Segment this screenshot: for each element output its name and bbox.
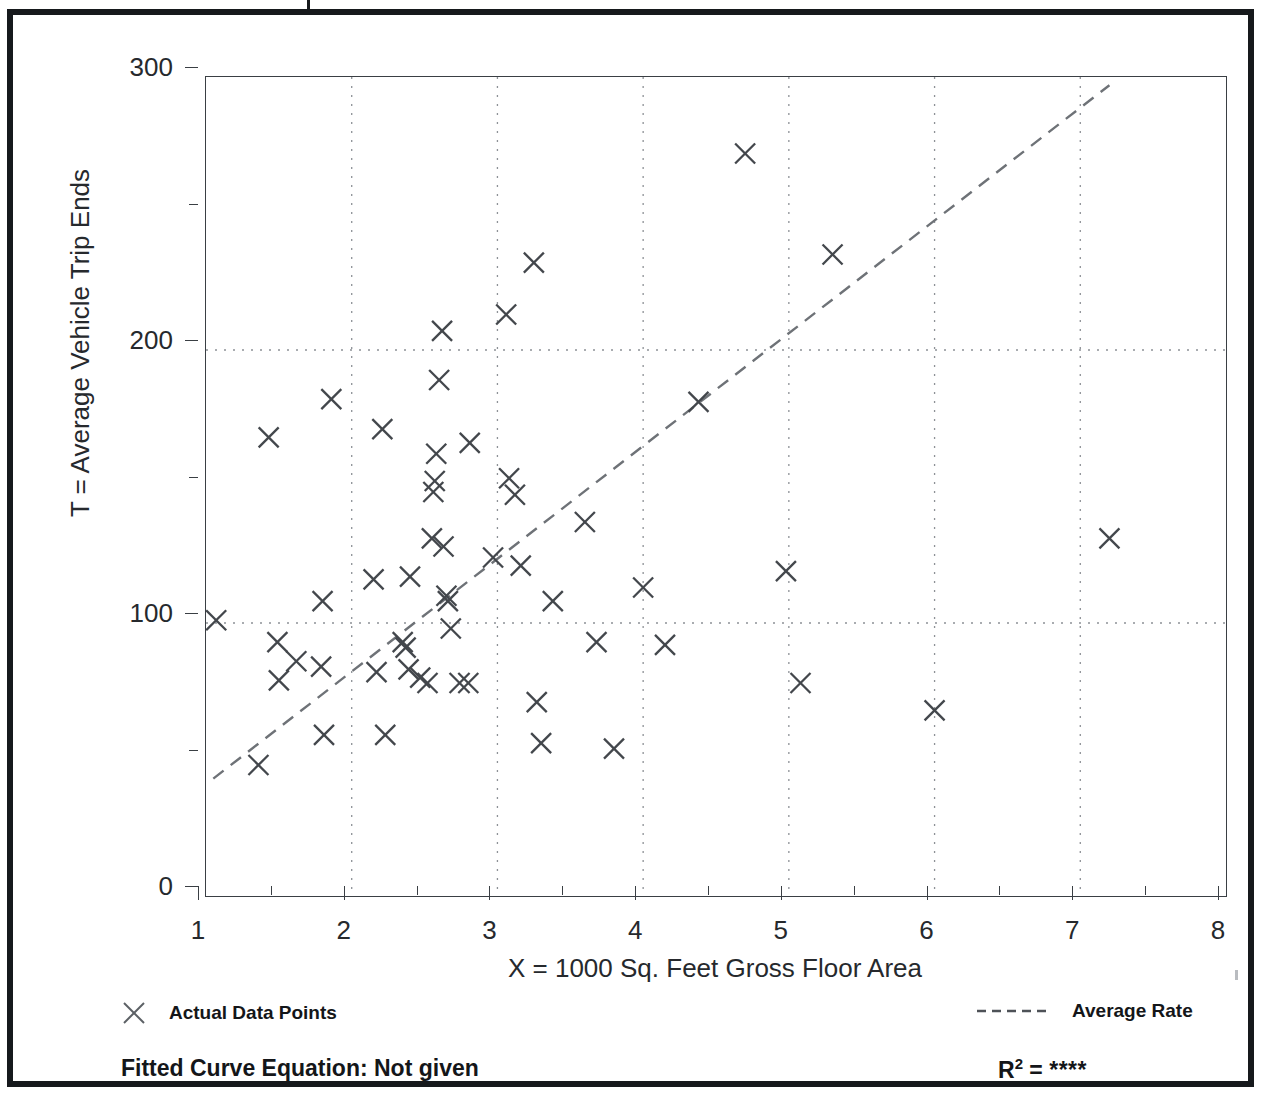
x-axis-tick-label: 3 xyxy=(449,917,529,943)
y-axis-tick xyxy=(185,340,198,341)
fitted-curve-equation: Fitted Curve Equation: Not given xyxy=(121,1055,479,1082)
x-axis-minor-tick xyxy=(999,886,1000,895)
x-axis-minor-tick xyxy=(708,886,709,895)
y-axis-tick-label: 300 xyxy=(53,54,173,80)
x-axis-tick-label: 6 xyxy=(887,917,967,943)
x-axis-tick-label: 5 xyxy=(741,917,821,943)
r-squared-exponent: 2 xyxy=(1015,1055,1023,1072)
x-axis-tick xyxy=(489,886,490,900)
legend-actual-data-points-label: Actual Data Points xyxy=(169,1002,337,1024)
x-marker-icon xyxy=(121,1000,147,1026)
r-squared-equals: = xyxy=(1023,1057,1049,1083)
title-descender-mark xyxy=(307,0,310,9)
x-axis-tick xyxy=(781,886,782,900)
x-axis-tick xyxy=(927,886,928,900)
dashed-line-icon xyxy=(976,1005,1052,1017)
x-axis-title: X = 1000 Sq. Feet Gross Floor Area xyxy=(205,953,1225,984)
x-axis-tick-label: 2 xyxy=(304,917,384,943)
scatter-plot-svg xyxy=(206,77,1226,896)
y-axis-tick xyxy=(185,67,198,68)
clipped-title-sliver xyxy=(0,0,1267,9)
x-axis-minor-tick xyxy=(562,886,563,895)
x-axis-tick xyxy=(344,886,345,900)
x-axis-tick xyxy=(198,886,199,900)
x-axis-tick xyxy=(1218,886,1219,900)
x-axis-minor-tick xyxy=(417,886,418,895)
x-axis-tick-label: 8 xyxy=(1178,917,1258,943)
x-axis-tick-label: 4 xyxy=(595,917,675,943)
y-axis-minor-tick xyxy=(189,477,198,478)
y-axis-minor-tick xyxy=(189,204,198,205)
y-axis-tick xyxy=(185,613,198,614)
x-axis-tick xyxy=(1072,886,1073,900)
y-axis-tick-label: 0 xyxy=(53,873,173,899)
plot-area xyxy=(205,76,1227,897)
legend-average-rate-label: Average Rate xyxy=(1072,1000,1193,1022)
x-axis-tick-label: 7 xyxy=(1032,917,1112,943)
r-squared-value: R2 = **** xyxy=(998,1055,1087,1084)
legend-average-rate: Average Rate xyxy=(976,1000,1193,1022)
x-axis-minor-tick xyxy=(854,886,855,895)
x-axis-tick-label: 1 xyxy=(158,917,238,943)
y-axis-minor-tick xyxy=(189,750,198,751)
legend-actual-data-points: Actual Data Points xyxy=(121,1000,337,1026)
y-axis-tick xyxy=(185,886,198,887)
r-squared-stars: **** xyxy=(1049,1057,1087,1083)
y-axis-tick-label: 200 xyxy=(53,327,173,353)
page-border-frame: T = Average Vehicle Trip Ends X = 1000 S… xyxy=(7,9,1254,1087)
page-artifact-speck xyxy=(1235,970,1238,980)
r-squared-base: R xyxy=(998,1057,1015,1083)
y-axis-tick-label: 100 xyxy=(53,600,173,626)
x-axis-minor-tick xyxy=(1145,886,1146,895)
x-axis-minor-tick xyxy=(271,886,272,895)
x-axis-tick xyxy=(635,886,636,900)
